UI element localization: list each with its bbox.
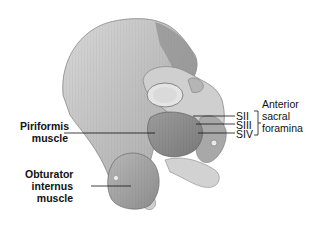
foramina-label-line1: Anterior bbox=[262, 98, 303, 110]
foramina-label-line3: foramina bbox=[262, 122, 303, 134]
obturator-internus-muscle bbox=[108, 153, 159, 209]
foramina-label: Anterior sacral foramina bbox=[262, 98, 303, 134]
foramina-bracket bbox=[254, 111, 258, 135]
piriformis-muscle bbox=[148, 112, 203, 157]
anatomy-diagram: Piriformis muscle Obturator internus mus… bbox=[0, 0, 322, 237]
sacral-level-siv: SIV bbox=[236, 128, 253, 140]
obturator-label-line1: Obturator bbox=[25, 168, 73, 180]
obturator-label: Obturator internus muscle bbox=[25, 168, 73, 204]
piriformis-label-line2: muscle bbox=[20, 132, 68, 144]
piriformis-label: Piriformis muscle bbox=[20, 120, 68, 144]
foramina-label-line2: sacral bbox=[262, 110, 303, 122]
obturator-label-line3: muscle bbox=[25, 192, 73, 204]
piriformis-label-line1: Piriformis bbox=[20, 120, 68, 132]
sacral-levels: SII SIII SIV bbox=[236, 110, 253, 140]
obturator-label-line2: internus bbox=[25, 180, 73, 192]
